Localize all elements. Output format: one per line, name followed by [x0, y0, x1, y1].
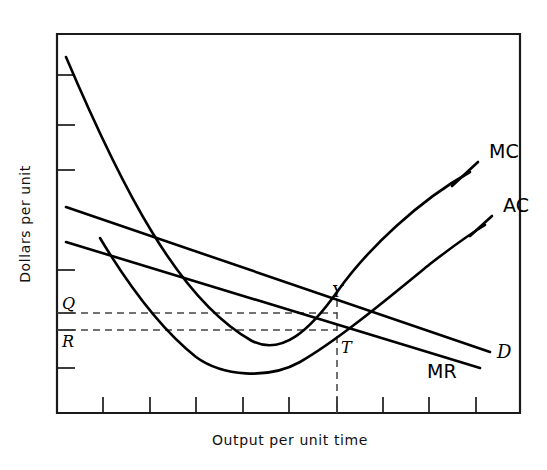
y-axis-title: Dollars per unit: [17, 165, 33, 283]
label-y: Y: [332, 282, 344, 301]
mc-curve: [66, 57, 470, 345]
ac-label: AC: [503, 194, 529, 216]
mc-leader-line: [452, 162, 478, 186]
y-axis-ticks: [57, 75, 75, 368]
label-r: R: [61, 332, 74, 351]
label-t: T: [341, 338, 353, 357]
cost-revenue-chart: MC AC D MR Q R Y T Dollars per unit Outp…: [0, 0, 547, 470]
marginal-revenue-curve: [66, 242, 480, 368]
x-axis-ticks: [103, 397, 476, 413]
mr-label: MR: [427, 360, 457, 382]
ac-leader-line: [470, 216, 492, 236]
mc-label: MC: [489, 140, 519, 162]
plot-frame: [57, 34, 520, 413]
label-q: Q: [62, 294, 75, 313]
economics-figure: MC AC D MR Q R Y T Dollars per unit Outp…: [0, 0, 547, 470]
demand-label: D: [496, 341, 512, 362]
x-axis-title: Output per unit time: [212, 432, 368, 448]
